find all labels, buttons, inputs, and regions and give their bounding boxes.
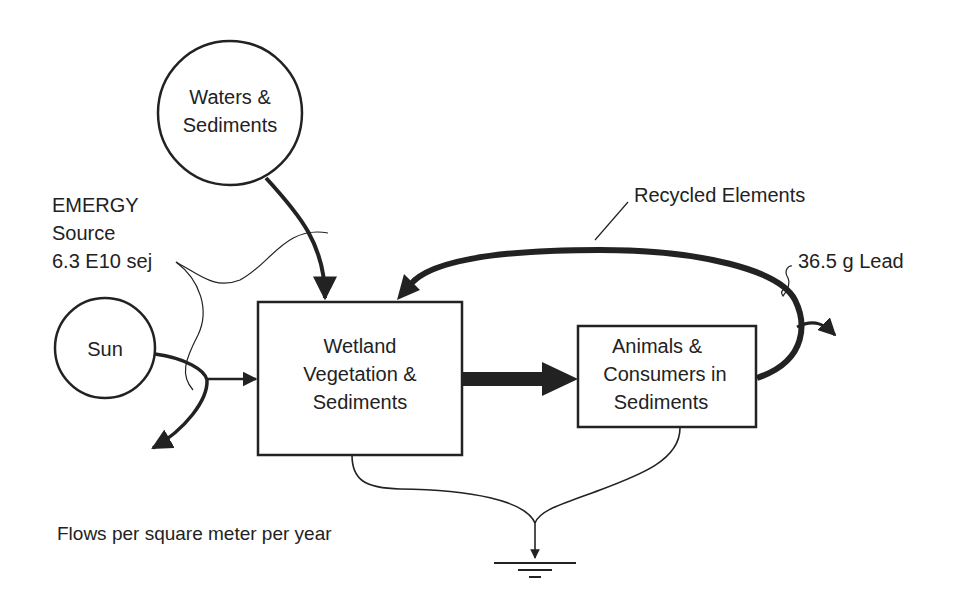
animals-label-line3: Sediments (614, 391, 709, 413)
emergy-line1: EMERGY (52, 194, 139, 216)
units-footnote: Flows per square meter per year (57, 523, 332, 544)
waters-label-line2: Sediments (183, 114, 278, 136)
sun-outflow-arrow (153, 354, 207, 448)
animals-label-line2: Consumers in (603, 363, 726, 385)
sun-label: Sun (87, 338, 123, 360)
recycled-pointer-line (595, 202, 628, 240)
heat-sink-ground-icon (494, 563, 576, 577)
recycled-elements-label: Recycled Elements (634, 184, 805, 206)
sun-flow (153, 354, 256, 448)
emergy-pointer-line (176, 232, 328, 283)
wetland-label-line3: Sediments (313, 391, 408, 413)
energy-systems-diagram: Waters & Sediments Sun EMERGY Source 6.3… (0, 0, 967, 613)
source-circle-icon (158, 41, 302, 185)
emergy-line2: Source (52, 222, 115, 244)
wetland-label-line1: Wetland (323, 335, 396, 357)
waters-sediments-source: Waters & Sediments (158, 41, 302, 185)
wetland-label-line2: Vegetation & (303, 363, 417, 385)
waters-inflow-arrow (266, 178, 325, 298)
waters-label-line1: Waters & (189, 86, 271, 108)
animals-label-line1: Animals & (612, 335, 703, 357)
sun-source: Sun (55, 298, 155, 398)
animals-consumers-box: Animals & Consumers in Sediments (578, 326, 756, 427)
wetland-storage-box: Wetland Vegetation & Sediments (258, 302, 462, 455)
emergy-line3: 6.3 E10 sej (52, 250, 152, 272)
lead-label: 36.5 g Lead (798, 250, 904, 272)
wetland-to-animals-arrow (462, 362, 578, 396)
